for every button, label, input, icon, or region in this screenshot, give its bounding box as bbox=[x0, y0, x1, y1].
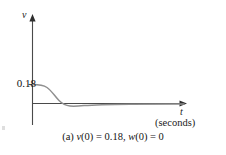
caption-w-arg: (0) = 0 bbox=[135, 131, 164, 142]
figure-caption: (a) v(0) = 0.18, w(0) = 0 bbox=[0, 131, 226, 143]
arrow-up-icon bbox=[29, 14, 35, 22]
x-axis-units-label: (seconds) bbox=[155, 118, 195, 129]
curve-v-of-t bbox=[33, 85, 185, 107]
y-axis-label: v bbox=[22, 10, 26, 20]
x-axis-label: t bbox=[180, 107, 183, 117]
y-tick-label-018: 0.18 bbox=[17, 78, 36, 89]
scan-artifact bbox=[2, 126, 5, 130]
caption-v-arg: (0) = 0.18, bbox=[81, 131, 125, 142]
figure-panel-a: v t (seconds) 0.18 (a) v(0) = 0.18, w(0)… bbox=[0, 0, 226, 155]
caption-prefix: (a) bbox=[62, 131, 74, 142]
